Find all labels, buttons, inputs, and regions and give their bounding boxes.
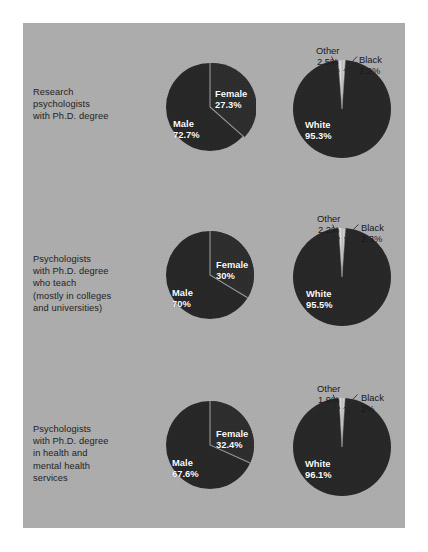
- other-name-1: Other: [316, 45, 339, 56]
- male-value-3: 67.6%: [172, 468, 199, 479]
- white-name-3: White: [305, 458, 331, 469]
- row-caption-2: Psychologistswith Ph.D. degreewho teach(…: [33, 253, 155, 314]
- race-pie-2-other-callout: Other 2.2%: [317, 213, 340, 236]
- gender-pie-3-male-label: Male 67.6%: [172, 457, 199, 480]
- gender-pie-2-female-label: Female 30%: [216, 259, 248, 282]
- gender-pie-1-female-label: Female 27.3%: [215, 88, 247, 111]
- race-pie-1-black-callout: Black 2.2%: [359, 54, 382, 77]
- male-name-2: Male: [172, 287, 193, 298]
- race-pie-3-other-callout: Other 1.9%: [317, 383, 340, 406]
- gender-pie-1: Female 27.3% Male 72.7%: [164, 61, 256, 153]
- chart-panel: Researchpsychologistswith Ph.D. degree F…: [23, 23, 405, 528]
- figure-canvas: Researchpsychologistswith Ph.D. degree F…: [0, 0, 428, 552]
- female-value-1: 27.3%: [215, 99, 242, 110]
- other-name-3: Other: [317, 383, 340, 394]
- male-name-3: Male: [172, 457, 193, 468]
- black-value-1: 2.2%: [359, 65, 380, 76]
- black-name-2: Black: [361, 222, 384, 233]
- other-value-3: 1.9%: [318, 394, 339, 405]
- black-value-2: 2.3%: [361, 233, 382, 244]
- chart-row-research-psychologists: Researchpsychologistswith Ph.D. degree F…: [23, 23, 405, 191]
- row-caption-3: Psychologistswith Ph.D. degreein health …: [33, 423, 155, 484]
- black-value-3: 2%: [361, 403, 375, 414]
- female-name-3: Female: [216, 428, 248, 439]
- black-name-1: Black: [359, 54, 382, 65]
- row-caption-1: Researchpsychologistswith Ph.D. degree: [33, 86, 155, 123]
- female-name-2: Female: [216, 259, 248, 270]
- chart-row-teaching-psychologists: Psychologistswith Ph.D. degreewho teach(…: [23, 191, 405, 361]
- gender-pie-2: Female 30% Male 70%: [164, 229, 256, 321]
- female-name-1: Female: [215, 88, 247, 99]
- male-name-1: Male: [173, 118, 194, 129]
- gender-pie-3: Female 32.4% Male 67.6%: [164, 399, 256, 491]
- white-value-2: 95.5%: [306, 299, 333, 310]
- gender-pie-3-female-label: Female 32.4%: [216, 428, 248, 451]
- gender-pie-1-male-label: Male 72.7%: [173, 118, 200, 141]
- race-pie-1-white-label: White 95.3%: [305, 119, 332, 142]
- chart-row-health-services-psychologists: Psychologistswith Ph.D. degreein health …: [23, 361, 405, 528]
- female-value-2: 30%: [216, 270, 235, 281]
- white-value-3: 96.1%: [305, 469, 332, 480]
- race-pie-2-black-callout: Black 2.3%: [361, 222, 384, 245]
- gender-pie-2-male-label: Male 70%: [172, 287, 193, 310]
- race-pie-3-black-callout: Black 2%: [361, 392, 384, 415]
- male-value-1: 72.7%: [173, 129, 200, 140]
- other-value-1: 2.5%: [317, 56, 338, 67]
- white-name-2: White: [306, 288, 332, 299]
- white-name-1: White: [305, 119, 331, 130]
- black-name-3: Black: [361, 392, 384, 403]
- female-value-3: 32.4%: [216, 439, 243, 450]
- other-name-2: Other: [317, 213, 340, 224]
- race-pie-2-white-label: White 95.5%: [306, 288, 333, 311]
- other-value-2: 2.2%: [318, 224, 339, 235]
- race-pie-1-other-callout: Other 2.5%: [316, 45, 339, 68]
- male-value-2: 70%: [172, 298, 191, 309]
- race-pie-3-white-label: White 96.1%: [305, 458, 332, 481]
- white-value-1: 95.3%: [305, 130, 332, 141]
